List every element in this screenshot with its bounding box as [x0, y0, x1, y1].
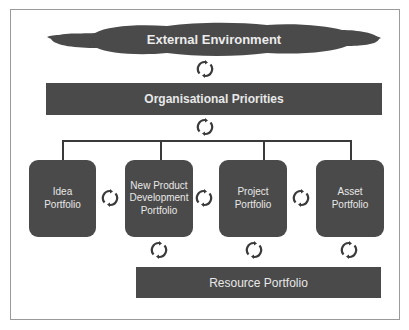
- cycle-arrows-icon: [195, 189, 213, 207]
- connector-line-project: [263, 140, 265, 160]
- connector-line-asset: [350, 140, 352, 160]
- cycle-arrows-icon: [340, 241, 358, 259]
- cycle-arrows-icon: [196, 60, 214, 78]
- idea-portfolio-label: Idea Portfolio: [44, 186, 81, 211]
- connector-line-idea: [62, 140, 64, 160]
- external-environment-cloud: External Environment: [47, 20, 381, 58]
- cycle-arrows-icon: [150, 241, 168, 259]
- connector-bus-line: [62, 140, 351, 142]
- connector-line-npd: [160, 140, 162, 160]
- organisational-priorities-label: Organisational Priorities: [144, 92, 283, 106]
- npd-portfolio-label: New Product Development Portfolio: [130, 180, 189, 218]
- cycle-arrows-icon: [292, 189, 310, 207]
- asset-portfolio-box: Asset Portfolio: [316, 160, 384, 237]
- cycle-arrows-icon: [196, 118, 214, 136]
- idea-portfolio-box: Idea Portfolio: [29, 160, 96, 237]
- npd-portfolio-box: New Product Development Portfolio: [125, 160, 193, 237]
- resource-portfolio-label: Resource Portfolio: [209, 276, 308, 290]
- organisational-priorities-bar: Organisational Priorities: [46, 83, 382, 115]
- resource-portfolio-bar: Resource Portfolio: [136, 267, 381, 298]
- project-portfolio-label: Project Portfolio: [235, 186, 272, 211]
- project-portfolio-box: Project Portfolio: [219, 160, 287, 237]
- cycle-arrows-icon: [245, 241, 263, 259]
- asset-portfolio-label: Asset Portfolio: [332, 186, 369, 211]
- external-environment-label: External Environment: [47, 20, 381, 58]
- cycle-arrows-icon: [101, 189, 119, 207]
